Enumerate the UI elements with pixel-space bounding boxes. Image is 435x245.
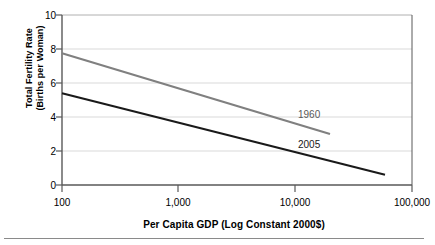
series-line-1960 (62, 53, 330, 134)
x-axis-title: Per Capita GDP (Log Constant 2000$) (56, 219, 412, 230)
x-tick-label-10000: 10,000 (265, 198, 325, 208)
x-tick-label-100: 100 (32, 198, 92, 208)
x-axis-ticks (62, 185, 412, 192)
x-tick-label-100000: 100,000 (382, 198, 435, 208)
gridlines (62, 15, 412, 151)
series-annotation-2005: 2005 (298, 140, 320, 150)
series-line-2005 (62, 93, 385, 175)
series-annotation-1960: 1960 (298, 110, 320, 120)
footer-divider (4, 238, 424, 239)
y-axis-ticks (56, 15, 62, 185)
x-tick-label-1000: 1,000 (148, 198, 208, 208)
